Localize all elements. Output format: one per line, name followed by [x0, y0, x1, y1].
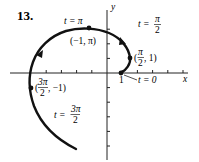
label-coord-3half-pi-num: 3π	[37, 77, 48, 87]
label-coord-half-pi-close: , 1)	[144, 53, 157, 64]
parametric-curve-diagram: 13. y x 1 t = π (−1, π) t = π 2 ( π 2 , …	[0, 0, 199, 162]
label-coord-3half-pi-close: , −1)	[48, 83, 66, 94]
label-coord-half-pi-num: π	[138, 47, 143, 57]
label-t-half-pi-num: π	[155, 14, 160, 24]
point-t-3half-pi	[29, 86, 34, 91]
x-axis-label: x	[182, 74, 188, 84]
label-coord-pi: (−1, π)	[70, 36, 96, 47]
label-t-half-pi: t =	[138, 19, 149, 29]
label-t-3half-pi-num: 3π	[70, 104, 81, 114]
leader-line	[124, 75, 137, 80]
label-coord-3half-pi-den: 2	[40, 88, 45, 98]
point-t-pi	[87, 26, 92, 31]
label-coord-half-pi-den: 2	[138, 58, 143, 68]
x-tick-label: 1	[119, 75, 124, 85]
label-t-half-pi-den: 2	[155, 25, 160, 35]
label-t-zero: t = 0	[138, 75, 157, 85]
problem-number: 13.	[17, 8, 33, 23]
label-t-3half-pi: t =	[54, 110, 65, 120]
curve-path	[30, 29, 130, 149]
point-t-half-pi	[128, 56, 133, 61]
direction-arrow-icon	[119, 37, 126, 45]
label-t-pi: t = π	[64, 16, 83, 26]
label-t-3half-pi-den: 2	[73, 115, 78, 125]
label-coord-half-pi-open: (	[134, 53, 137, 64]
y-axis-label: y	[110, 2, 116, 12]
